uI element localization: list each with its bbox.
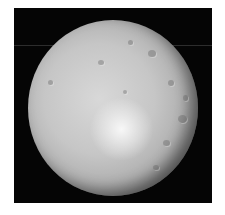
- crater: [183, 95, 188, 101]
- crater: [148, 50, 156, 57]
- crater: [98, 60, 104, 65]
- crater: [48, 80, 53, 85]
- crater: [168, 80, 174, 86]
- crater: [123, 90, 127, 94]
- space-background: [14, 8, 212, 203]
- crater: [163, 140, 170, 146]
- crater: [178, 115, 187, 123]
- crater: [153, 165, 159, 170]
- crater: [128, 40, 133, 45]
- moon: [28, 20, 198, 196]
